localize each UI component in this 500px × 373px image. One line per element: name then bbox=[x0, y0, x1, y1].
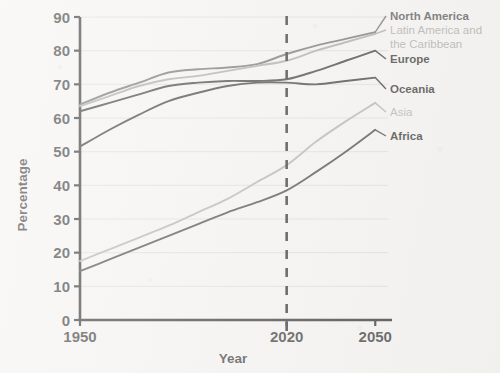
x-tick-label: 2050 bbox=[359, 328, 392, 345]
label-leader-line bbox=[375, 78, 386, 89]
y-tick-label: 30 bbox=[53, 211, 70, 228]
series-line-asia bbox=[80, 103, 375, 261]
label-leader-line bbox=[375, 103, 386, 112]
y-tick-label: 60 bbox=[53, 110, 70, 127]
series-label-latin-america-line2: the Caribbean bbox=[390, 38, 462, 50]
chart-canvas: 0102030405060708090 195020202050 Percent… bbox=[0, 0, 500, 373]
y-tick-label: 70 bbox=[53, 76, 70, 93]
series-line-north-america bbox=[80, 32, 375, 104]
series-label-north-america: North America bbox=[390, 10, 469, 22]
y-axis-title: Percentage bbox=[15, 158, 30, 231]
label-leader-line bbox=[375, 16, 386, 32]
series-label-asia: Asia bbox=[390, 106, 413, 118]
series-label-europe: Europe bbox=[390, 53, 430, 65]
axes-group bbox=[74, 17, 392, 326]
series-label-latin-america-line1: Latin America and bbox=[390, 24, 482, 36]
gridlines-group bbox=[80, 17, 388, 286]
x-tick-labels-group: 195020202050 bbox=[63, 328, 392, 345]
urbanization-line-chart: 0102030405060708090 195020202050 Percent… bbox=[0, 0, 500, 373]
y-tick-label: 40 bbox=[53, 177, 70, 194]
series-label-oceania: Oceania bbox=[390, 83, 435, 95]
y-tick-label: 0 bbox=[62, 312, 70, 329]
y-tick-label: 80 bbox=[53, 42, 70, 59]
series-labels-group: North America Latin America and the Cari… bbox=[390, 10, 482, 142]
label-leader-line bbox=[375, 51, 386, 59]
x-axis-title: Year bbox=[219, 351, 248, 366]
y-tick-label: 10 bbox=[53, 278, 70, 295]
series-line-europe bbox=[80, 51, 375, 112]
y-tick-label: 50 bbox=[53, 143, 70, 160]
series-lines-group bbox=[80, 16, 386, 271]
x-tick-label: 1950 bbox=[63, 328, 96, 345]
label-leader-line bbox=[375, 130, 386, 136]
series-line-latin-america-and-the-caribbean bbox=[80, 34, 375, 106]
y-tick-label: 90 bbox=[53, 9, 70, 26]
series-label-africa: Africa bbox=[390, 130, 423, 142]
y-tick-labels-group: 0102030405060708090 bbox=[53, 9, 70, 329]
series-line-africa bbox=[80, 130, 375, 271]
y-tick-label: 20 bbox=[53, 244, 70, 261]
